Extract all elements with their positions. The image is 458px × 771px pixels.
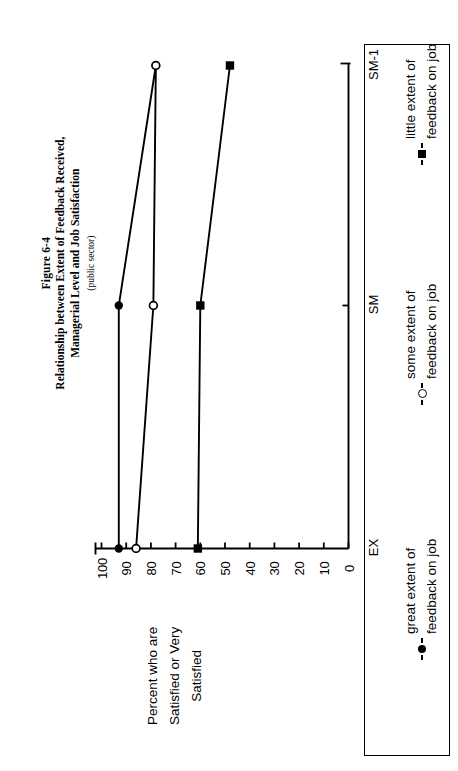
legend-label-line-1: great extent of [401,539,422,634]
legend-label: little extent offeedback on job [401,44,443,143]
legend-dash-right [421,638,423,643]
legend-glyph-filled-circle-icon [418,645,426,653]
legend-label-line-2: feedback on job [422,539,443,634]
y-axis-title: Percent who are Satisfied or Very Satisf… [142,571,208,771]
data-point-filled-square [226,61,234,69]
y-axis-title-line-2: Satisfied or Very [164,571,186,771]
data-point-open-circle [149,302,157,310]
data-point-open-circle [152,62,160,70]
y-axis-tick-label: 0 [341,551,356,585]
y-axis-tick-label: 30 [267,551,282,585]
legend-marker-filled-square-icon [415,143,429,165]
legend-dash-left [421,160,423,165]
y-axis-tick-label: 100 [94,551,109,585]
legend-dash-right [421,383,423,388]
legend-label-line-1: some extent of [401,284,422,379]
data-point-filled-square [196,301,204,309]
legend-label: some extent offeedback on job [401,284,443,383]
legend-glyph-filled-square-icon [418,150,426,158]
legend-dash-right [421,143,423,148]
legend-dash-left [421,400,423,405]
legend-dash-left [421,655,423,660]
y-axis-tick-label: 10 [316,551,331,585]
y-axis-tick-label: 40 [242,551,257,585]
y-axis-tick-label: 50 [218,551,233,585]
y-axis-title-line-1: Percent who are [142,571,164,771]
legend-label-line-2: feedback on job [422,44,443,139]
y-axis-tick-label: 90 [119,551,134,585]
legend-glyph-open-circle-icon [418,389,427,398]
legend-label-line-2: feedback on job [422,284,443,379]
legend-label-line-1: little extent of [401,44,422,139]
y-axis-title-line-3: Satisfied [186,571,208,771]
y-axis-tick-label: 20 [292,551,307,585]
legend-box: great extent offeedback on jobsome exten… [364,44,450,756]
legend-item-2: little extent offeedback on job [379,0,458,165]
legend-label: great extent offeedback on job [401,539,443,638]
legend-marker-open-circle-icon [415,383,429,405]
data-point-filled-circle [115,301,123,309]
legend-marker-filled-circle-icon [415,638,429,660]
